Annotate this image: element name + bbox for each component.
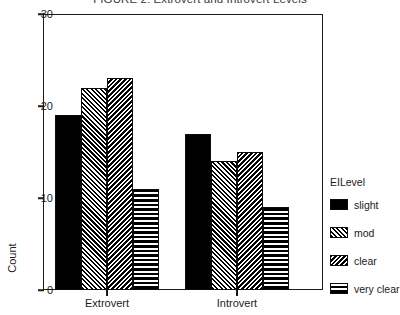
y-tick-mark [38,105,44,107]
chart-canvas: FIGURE 2: Extrovert and Introvert Levels… [0,0,400,315]
legend-item[interactable]: mod [330,225,400,240]
y-tick-label: 0 [13,284,53,296]
legend-label: slight [354,199,379,211]
y-tick-label: 20 [13,100,53,112]
y-tick-mark [38,13,44,15]
bar-introvert-slight [185,134,211,290]
legend-label: mod [354,227,374,239]
legend-item[interactable]: slight [330,197,400,212]
bar-introvert-clear [237,152,263,290]
bar-extrovert-very-clear [133,189,159,290]
x-tick-mark [236,290,238,296]
bar-extrovert-slight [55,115,81,290]
x-tick-label: Extrovert [47,297,167,309]
y-tick-mark [38,197,44,199]
y-tick-label: 10 [13,192,53,204]
y-tick-mark [38,289,44,291]
y-tick-label: 30 [13,8,53,20]
legend-item[interactable]: clear [330,253,400,268]
legend-entries: slightmodclearvery clear [330,197,400,296]
x-tick-mark [106,290,108,296]
legend-swatch-clear-icon [330,255,348,266]
legend: EILevel slightmodclearvery clear [330,176,400,309]
bar-extrovert-mod [81,88,107,290]
legend-title: EILevel [330,176,400,188]
x-tick-label: Introvert [177,297,297,309]
legend-item[interactable]: very clear [330,281,400,296]
bar-introvert-very-clear [263,207,289,290]
legend-swatch-slight-icon [330,199,348,210]
legend-swatch-mod-icon [330,227,348,238]
legend-label: very clear [354,283,400,295]
legend-label: clear [354,255,377,267]
y-axis-title: Count [6,228,18,288]
bar-extrovert-clear [107,78,133,290]
bar-introvert-mod [211,161,237,290]
legend-swatch-very-clear-icon [330,283,348,294]
